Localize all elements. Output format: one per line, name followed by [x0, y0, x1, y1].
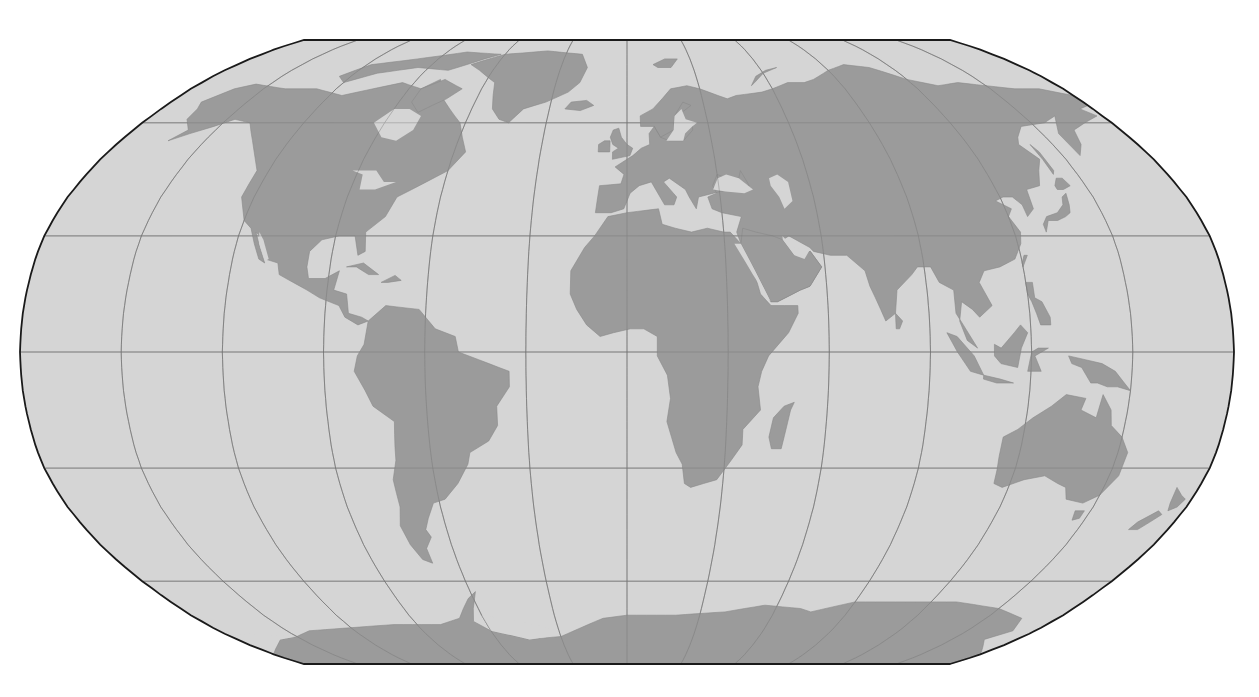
world-map	[0, 0, 1259, 697]
